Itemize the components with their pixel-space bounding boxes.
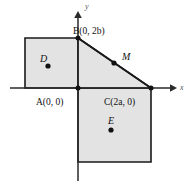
point-label-A: A(0, 0) [36, 98, 63, 108]
y-axis-label: y [85, 3, 89, 11]
point-M-dot [111, 60, 116, 65]
geometry-figure: y x B(0, 2b) A(0, 0) C(2a, 0) D E M [0, 0, 189, 189]
point-C-dot [149, 86, 154, 91]
y-axis-arrowhead [74, 11, 82, 18]
x-axis-label: x [180, 84, 184, 92]
point-label-E: E [108, 116, 114, 126]
point-label-B: B(0, 2b) [73, 27, 105, 37]
point-D-dot [45, 63, 50, 68]
x-axis-arrowhead [170, 84, 177, 92]
point-label-C: C(2a, 0) [104, 98, 135, 108]
point-E-dot [108, 127, 113, 132]
square-on-AB [25, 38, 78, 88]
point-label-M: M [122, 52, 130, 62]
point-label-D: D [40, 54, 47, 64]
point-A-dot [76, 86, 81, 91]
